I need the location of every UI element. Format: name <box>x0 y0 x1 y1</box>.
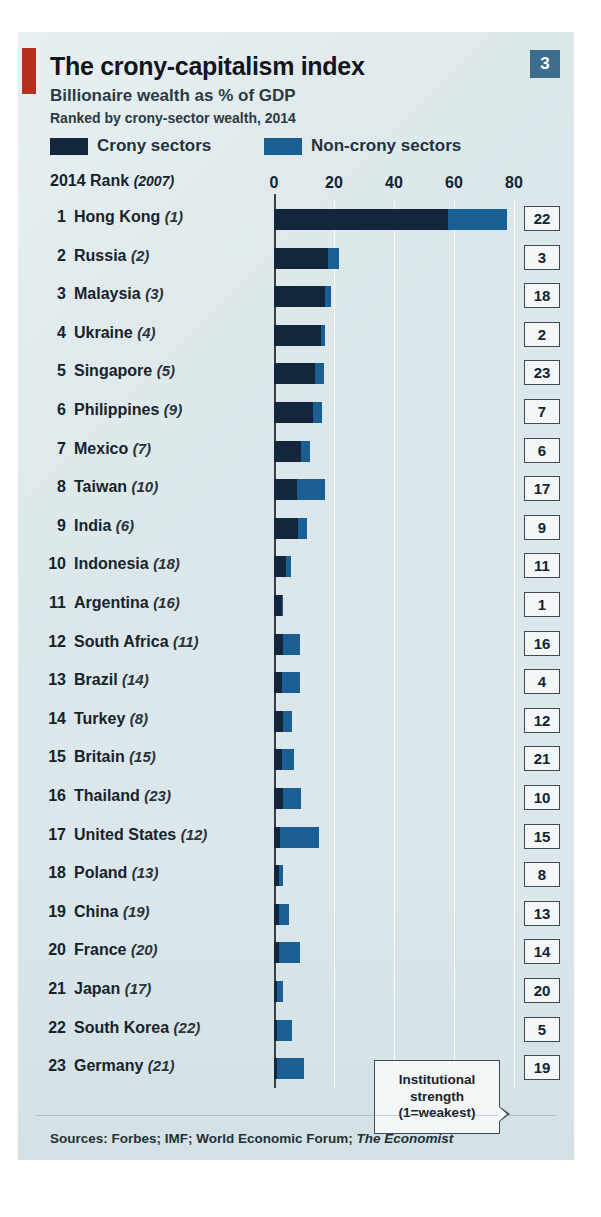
chart-row[interactable]: 4Ukraine (4)2 <box>18 316 574 355</box>
row-country-label: Taiwan (10) <box>74 478 158 496</box>
chart-row[interactable]: 5Singapore (5)23 <box>18 354 574 393</box>
chart-row[interactable]: 14Turkey (8)12 <box>18 702 574 741</box>
row-rank-2007: (4) <box>137 324 155 341</box>
x-tick-label-40: 40 <box>385 174 403 192</box>
row-country-label: India (6) <box>74 517 134 535</box>
bar-segment-crony <box>274 286 325 307</box>
institutional-strength-value: 10 <box>524 785 560 810</box>
bar-segment-noncrony <box>301 441 310 462</box>
x-tick-label-20: 20 <box>325 174 343 192</box>
chart-row[interactable]: 8Taiwan (10)17 <box>18 470 574 509</box>
bar-segment-crony <box>274 363 315 384</box>
row-rank: 3 <box>32 285 66 303</box>
row-country-label: Russia (2) <box>74 247 149 265</box>
chart-row[interactable]: 2Russia (2)3 <box>18 239 574 278</box>
bar-segment-noncrony <box>282 672 300 693</box>
row-country-name: South Africa <box>74 633 173 650</box>
chart-row[interactable]: 20France (20)14 <box>18 933 574 972</box>
chart-row[interactable]: 21Japan (17)20 <box>18 972 574 1011</box>
row-rank: 16 <box>32 787 66 805</box>
bar-segment-noncrony <box>282 749 294 770</box>
bar-segment-noncrony <box>283 711 292 732</box>
row-rank-2007: (18) <box>153 555 180 572</box>
chart-row[interactable]: 3Malaysia (3)18 <box>18 277 574 316</box>
row-country-label: China (19) <box>74 903 150 921</box>
bar-segment-crony <box>274 479 297 500</box>
chart-row[interactable]: 10Indonesia (18)11 <box>18 547 574 586</box>
row-country-name: Philippines <box>74 401 164 418</box>
row-country-name: Singapore <box>74 362 157 379</box>
institutional-strength-value: 12 <box>524 708 560 733</box>
chart-panel: 3 The crony-capitalism index Billionaire… <box>18 32 574 1160</box>
bar-segment-noncrony <box>279 904 290 925</box>
chart-row[interactable]: 22South Korea (22)5 <box>18 1011 574 1050</box>
row-country-name: Hong Kong <box>74 208 165 225</box>
chart-row[interactable]: 6Philippines (9)7 <box>18 393 574 432</box>
row-rank-2007: (12) <box>181 826 208 843</box>
chart-title: The crony-capitalism index <box>50 52 365 81</box>
chart-row[interactable]: 15Britain (15)21 <box>18 740 574 779</box>
institutional-strength-value: 17 <box>524 476 560 501</box>
row-rank: 21 <box>32 980 66 998</box>
institutional-strength-value: 18 <box>524 283 560 308</box>
institutional-strength-value: 23 <box>524 360 560 385</box>
bar-segment-crony <box>274 556 286 577</box>
red-accent-bar <box>22 48 36 94</box>
row-country-label: Poland (13) <box>74 864 158 882</box>
row-rank: 9 <box>32 517 66 535</box>
bar-segment-noncrony <box>280 827 319 848</box>
chart-subtitle-secondary: Ranked by crony-sector wealth, 2014 <box>50 110 296 126</box>
callout-line-2: strength <box>410 1089 464 1105</box>
chart-legend: Crony sectors Non-crony sectors <box>50 136 550 162</box>
rank-header-bold: 2014 Rank <box>50 172 129 189</box>
row-rank-2007: (6) <box>116 517 134 534</box>
row-rank: 5 <box>32 362 66 380</box>
bar-segment-crony <box>274 672 282 693</box>
row-rank-2007: (21) <box>148 1057 175 1074</box>
row-country-name: Germany <box>74 1057 148 1074</box>
institutional-strength-value: 22 <box>524 206 560 231</box>
row-rank-2007: (11) <box>173 633 199 650</box>
row-country-name: Mexico <box>74 440 133 457</box>
chart-row[interactable]: 9India (6)9 <box>18 509 574 548</box>
row-rank-2007: (22) <box>174 1019 201 1036</box>
row-country-name: South Korea <box>74 1019 174 1036</box>
bar-segment-noncrony <box>328 248 339 269</box>
row-rank: 18 <box>32 864 66 882</box>
chart-row[interactable]: 13Brazil (14)4 <box>18 663 574 702</box>
row-country-name: Brazil <box>74 671 122 688</box>
row-rank: 6 <box>32 401 66 419</box>
row-country-name: Argentina <box>74 594 153 611</box>
row-rank-2007: (23) <box>144 787 171 804</box>
bar-segment-crony <box>274 595 282 616</box>
figure-number-badge: 3 <box>530 50 560 78</box>
page-root: 3 The crony-capitalism index Billionaire… <box>0 0 601 1217</box>
row-country-label: Argentina (16) <box>74 594 180 612</box>
row-rank-2007: (16) <box>153 594 180 611</box>
bar-segment-noncrony <box>315 363 324 384</box>
institutional-strength-value: 11 <box>524 553 560 578</box>
rank-column-header: 2014 Rank (2007) <box>50 172 174 190</box>
chart-row[interactable]: 1Hong Kong (1)22 <box>18 200 574 239</box>
legend-item-noncrony: Non-crony sectors <box>264 136 461 156</box>
row-rank-2007: (13) <box>132 864 159 881</box>
bar-segment-noncrony <box>283 788 301 809</box>
chart-row[interactable]: 18Poland (13)8 <box>18 856 574 895</box>
bar-segment-noncrony <box>448 209 507 230</box>
legend-swatch-crony-icon <box>50 138 88 155</box>
chart-row[interactable]: 16Thailand (23)10 <box>18 779 574 818</box>
x-tick-label-0: 0 <box>270 174 279 192</box>
row-rank-2007: (15) <box>129 748 156 765</box>
chart-row[interactable]: 17United States (12)15 <box>18 818 574 857</box>
institutional-strength-value: 14 <box>524 939 560 964</box>
row-country-label: South Africa (11) <box>74 633 199 651</box>
row-rank-2007: (1) <box>165 208 183 225</box>
chart-row[interactable]: 12South Africa (11)16 <box>18 625 574 664</box>
chart-row[interactable]: 7Mexico (7)6 <box>18 432 574 471</box>
chart-row[interactable]: 11Argentina (16)1 <box>18 586 574 625</box>
institutional-strength-value: 8 <box>524 862 560 887</box>
row-country-label: Turkey (8) <box>74 710 148 728</box>
chart-row[interactable]: 19China (19)13 <box>18 895 574 934</box>
row-rank: 2 <box>32 247 66 265</box>
row-rank-2007: (14) <box>122 671 149 688</box>
